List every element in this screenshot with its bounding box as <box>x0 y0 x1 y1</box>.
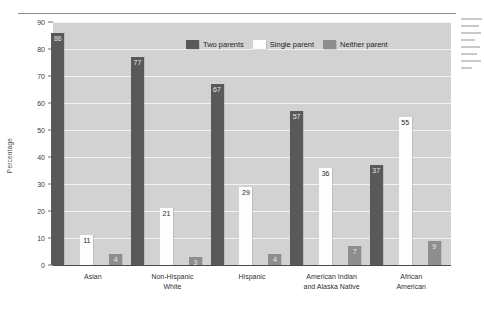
x-axis-label: AfricanAmerican <box>357 272 465 291</box>
x-axis-label-line: African <box>400 273 422 280</box>
bar-group: 57367 <box>292 22 372 265</box>
y-axis-tick-label: 10 <box>23 235 45 242</box>
legend-item: Two parents <box>186 40 244 49</box>
bar-value-label: 77 <box>131 59 144 67</box>
bar: 55 <box>399 117 412 266</box>
x-axis-label-line: White <box>119 282 227 292</box>
y-axis-tick-label: 60 <box>23 100 45 107</box>
bar-group: 86114 <box>53 22 133 265</box>
margin-text-line <box>461 32 481 34</box>
margin-text-line <box>461 53 477 55</box>
y-axis-title-text: Percentage <box>7 137 14 172</box>
x-axis-label-line: Hispanic <box>239 273 266 280</box>
bar-group: 67294 <box>212 22 292 265</box>
x-axis-line <box>53 265 451 266</box>
bar-value-label: 29 <box>239 189 252 197</box>
y-axis-tick-label: 0 <box>23 262 45 269</box>
legend-label: Single parent <box>270 40 314 49</box>
bar-value-label: 9 <box>428 243 441 251</box>
bar: 57 <box>290 111 303 265</box>
legend-label: Neither parent <box>340 40 388 49</box>
bar-value-label: 36 <box>319 170 332 178</box>
bar-group: 77213 <box>133 22 213 265</box>
plot-area: 8611477213672945736737559 <box>53 22 451 265</box>
bar: 21 <box>160 208 173 265</box>
y-axis-tick-label: 40 <box>23 154 45 161</box>
margin-text-line <box>461 46 480 48</box>
bar-value-label: 11 <box>80 237 93 245</box>
legend-item: Neither parent <box>323 40 388 49</box>
y-axis-tick-label: 20 <box>23 208 45 215</box>
bar: 36 <box>319 168 332 265</box>
bar: 29 <box>239 187 252 265</box>
bar: 11 <box>80 235 93 265</box>
bar: 4 <box>268 254 281 265</box>
x-axis-label-line: American <box>357 282 465 292</box>
legend-swatch <box>186 40 199 49</box>
y-axis-tick-label: 70 <box>23 73 45 80</box>
legend-item: Single parent <box>253 40 314 49</box>
bar-value-label: 55 <box>399 119 412 127</box>
x-axis-label-line: Non-Hispanic <box>151 273 193 280</box>
x-axis-label-line: Asian <box>84 273 102 280</box>
bar: 7 <box>348 246 361 265</box>
y-axis-tick-label: 30 <box>23 181 45 188</box>
bar-value-label: 21 <box>160 210 173 218</box>
legend-label: Two parents <box>203 40 244 49</box>
margin-text-line <box>461 39 475 41</box>
legend-swatch <box>323 40 336 49</box>
margin-text-line <box>461 25 479 27</box>
bar: 37 <box>370 165 383 265</box>
bar-value-label: 4 <box>109 256 122 264</box>
top-divider <box>18 13 456 14</box>
bar-value-label: 67 <box>211 86 224 94</box>
bar-value-label: 4 <box>268 256 281 264</box>
margin-text-line <box>461 60 481 62</box>
bar-value-label: 57 <box>290 113 303 121</box>
bar: 9 <box>428 241 441 265</box>
y-axis-tick-label: 50 <box>23 127 45 134</box>
bar: 4 <box>109 254 122 265</box>
x-axis-labels: AsianNon-HispanicWhiteHispanicAmerican I… <box>53 272 451 312</box>
chart-legend: Two parentsSingle parentNeither parent <box>186 40 388 49</box>
bar: 3 <box>189 257 202 265</box>
bar-value-label: 86 <box>51 35 64 43</box>
chart-page: Percentage 0102030405060708090 861147721… <box>0 0 484 314</box>
bar-group: 37559 <box>371 22 451 265</box>
legend-swatch <box>253 40 266 49</box>
bar: 86 <box>51 33 64 265</box>
bar-value-label: 37 <box>370 167 383 175</box>
y-axis-ticks: 0102030405060708090 <box>22 22 53 265</box>
margin-text-placeholder <box>461 18 484 69</box>
margin-text-line <box>461 18 482 20</box>
bar: 77 <box>131 57 144 265</box>
y-axis-tick-label: 80 <box>23 46 45 53</box>
y-axis-tick-label: 90 <box>23 19 45 26</box>
bar-value-label: 7 <box>348 248 361 256</box>
x-axis-label-line: American Indian <box>306 273 357 280</box>
margin-text-line <box>461 67 472 69</box>
y-axis-title: Percentage <box>2 120 18 190</box>
bar: 67 <box>211 84 224 265</box>
